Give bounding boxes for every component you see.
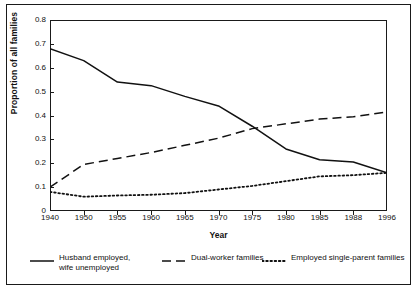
- y-axis-title: Proportion of all families: [9, 0, 19, 143]
- legend-label: Employed single-parent families: [291, 253, 404, 263]
- y-tick-mark: [50, 116, 54, 117]
- y-tick-label: 0.6: [22, 64, 46, 72]
- x-tick-mark: [151, 211, 152, 215]
- y-tick-label: 0.3: [22, 135, 46, 143]
- legend-label: Husband employed, wife unemployed: [59, 253, 130, 273]
- chart-legend: Husband employed, wife unemployedDual-wo…: [14, 253, 406, 277]
- y-tick-mark: [50, 44, 54, 45]
- y-tick-label: 0.8: [22, 16, 46, 24]
- x-tick-mark: [286, 211, 287, 215]
- figure: 00.10.20.30.40.50.60.70.8 Proportion of …: [0, 0, 417, 290]
- y-tick-mark: [50, 163, 54, 164]
- plot-lines: [50, 20, 387, 211]
- x-tick-mark: [84, 211, 85, 215]
- plot-area: [50, 20, 387, 211]
- y-tick-label: 0.2: [22, 159, 46, 167]
- y-tick-label: 0.5: [22, 88, 46, 96]
- series-line: [50, 49, 387, 173]
- x-axis-title: Year: [50, 230, 387, 240]
- x-tick-mark: [185, 211, 186, 215]
- x-tick-mark: [320, 211, 321, 215]
- y-tick-mark: [50, 139, 54, 140]
- legend-line-icon: [162, 256, 186, 266]
- legend-line-icon: [30, 256, 54, 266]
- legend-entry[interactable]: Husband employed, wife unemployed: [30, 253, 130, 273]
- x-tick-mark: [219, 211, 220, 215]
- x-axis-tick-labels: 1940195019551960196519701975198019851988…: [50, 214, 387, 228]
- y-tick-label: 0.1: [22, 183, 46, 191]
- y-tick-mark: [50, 68, 54, 69]
- y-tick-mark: [50, 20, 54, 21]
- x-tick-mark: [117, 211, 118, 215]
- x-tick-mark: [252, 211, 253, 215]
- y-tick-mark: [50, 187, 54, 188]
- x-tick-label: 1996: [367, 214, 407, 222]
- series-line: [50, 173, 387, 197]
- x-tick-mark: [353, 211, 354, 215]
- legend-entry[interactable]: Dual-worker families: [162, 253, 263, 266]
- legend-entry[interactable]: Employed single-parent families: [262, 253, 404, 266]
- y-tick-mark: [50, 92, 54, 93]
- y-axis-tick-labels: 00.10.20.30.40.50.60.70.8: [18, 0, 46, 290]
- legend-line-icon: [262, 256, 286, 266]
- y-tick-label: 0.4: [22, 112, 46, 120]
- legend-label: Dual-worker families: [191, 253, 263, 263]
- y-tick-label: 0.7: [22, 40, 46, 48]
